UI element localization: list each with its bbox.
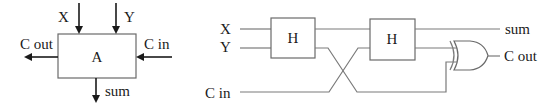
half-adder-1-label: H [288,30,299,46]
circuit-carry-out-label: C out [504,48,538,64]
sum-output-label: sum [105,83,130,99]
full-adder-figure: A X Y C out C in sum [0,0,556,111]
carry-out-arrow-icon [24,53,58,61]
full-adder-circuit: X Y C in H H sum C out [205,18,538,101]
circuit-carry-in-label: C in [205,85,231,101]
sum-output-arrow-icon [92,78,100,103]
full-adder-block-diagram: A X Y C out C in sum [20,3,172,103]
carry-out-label: C out [20,36,54,52]
block-a-label: A [92,49,103,65]
carry-in-label: C in [144,36,170,52]
x-input-label: X [58,9,69,25]
circuit-sum-label: sum [505,21,530,37]
half-adder-2-label: H [387,31,398,47]
carry-in-arrow-icon [136,53,172,61]
x-input-arrow-icon [75,3,83,34]
y-input-arrow-icon [112,3,120,34]
or-gate-icon [450,41,488,70]
circuit-y-label: Y [220,39,231,55]
y-input-label: Y [124,9,135,25]
circuit-x-label: X [220,21,231,37]
